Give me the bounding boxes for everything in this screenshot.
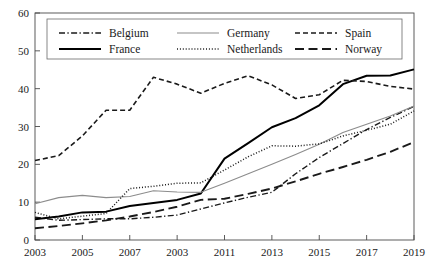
x-axis-ticks: 200320052007200320112013201520172019: [24, 235, 426, 258]
y-tick-label: 50: [18, 45, 30, 57]
legend-label-netherlands: Netherlands: [227, 43, 283, 55]
y-tick-label: 30: [18, 121, 30, 133]
legend-label-spain: Spain: [345, 27, 371, 40]
x-tick-label: 2017: [356, 246, 379, 258]
x-tick-label: 2005: [71, 246, 94, 258]
y-tick-label: 40: [18, 83, 30, 95]
y-tick-label: 20: [18, 158, 30, 170]
y-axis-ticks: 0102030405060: [18, 7, 40, 246]
y-tick-label: 60: [18, 7, 30, 19]
x-tick-label: 2013: [261, 246, 284, 258]
line-chart-figure: 0102030405060 20032005200720032011201320…: [0, 0, 429, 269]
series-line-spain: [35, 76, 414, 161]
y-tick-label: 10: [18, 196, 30, 208]
chart-legend: BelgiumGermanySpainFranceNetherlandsNorw…: [47, 19, 402, 59]
x-tick-label: 2015: [308, 246, 331, 258]
series-line-norway: [35, 142, 414, 228]
x-tick-label: 2003: [166, 246, 189, 258]
legend-label-belgium: Belgium: [109, 27, 149, 40]
legend-label-germany: Germany: [227, 27, 270, 40]
data-series-group: [35, 69, 414, 228]
legend-label-norway: Norway: [345, 43, 382, 56]
legend-label-france: France: [109, 43, 140, 55]
y-tick-label: 0: [24, 234, 30, 246]
x-tick-label: 2007: [119, 246, 142, 258]
chart-canvas: 0102030405060 20032005200720032011201320…: [0, 0, 429, 269]
series-line-germany: [35, 106, 414, 204]
x-tick-label: 2003: [24, 246, 47, 258]
x-tick-label: 2019: [403, 246, 426, 258]
x-tick-label: 2011: [214, 246, 236, 258]
